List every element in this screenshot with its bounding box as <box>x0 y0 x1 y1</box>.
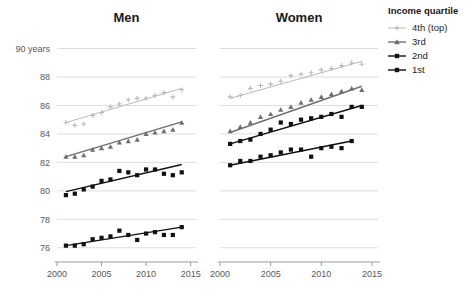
y-tick-label: 84 <box>40 129 50 139</box>
data-point <box>309 70 314 75</box>
data-point <box>349 86 354 91</box>
data-point <box>309 116 313 120</box>
data-point <box>278 79 283 84</box>
series-men-3rd <box>63 120 184 159</box>
legend-marker <box>395 68 399 72</box>
data-point <box>360 105 364 109</box>
data-point <box>228 163 232 167</box>
data-point <box>180 225 184 229</box>
data-point <box>359 87 364 92</box>
data-point <box>117 229 121 233</box>
data-point <box>258 114 263 119</box>
data-point <box>91 237 95 241</box>
data-point <box>117 169 121 173</box>
legend-item-4th-top-[interactable]: 4th (top) <box>388 22 447 33</box>
data-point <box>73 244 77 248</box>
data-point <box>108 144 113 149</box>
data-point <box>64 244 68 248</box>
data-point <box>99 179 103 183</box>
data-point <box>289 147 293 151</box>
data-point <box>309 155 313 159</box>
data-point <box>268 82 273 87</box>
data-point <box>144 96 149 101</box>
y-tick-label: 82 <box>40 158 50 168</box>
legend-label: 4th (top) <box>412 22 447 33</box>
x-tick-label: 2015 <box>362 269 382 279</box>
data-point <box>171 173 175 177</box>
x-tick-label: 2010 <box>311 269 331 279</box>
y-tick-label: 88 <box>40 72 50 82</box>
data-point <box>279 150 283 154</box>
data-point <box>162 233 166 237</box>
legend-item-3rd[interactable]: 3rd <box>388 36 426 47</box>
x-tick-label: 2015 <box>181 269 201 279</box>
data-point <box>350 139 354 143</box>
data-point <box>268 111 273 116</box>
series-women-1st <box>228 139 354 167</box>
trend-line <box>66 122 182 157</box>
y-tick-label: 80 <box>40 186 50 196</box>
y-tick-label: 90 years <box>15 44 50 54</box>
data-point <box>269 128 273 132</box>
x-tick-label: 2005 <box>92 269 112 279</box>
data-point <box>126 97 131 102</box>
data-point <box>238 159 242 163</box>
data-point <box>289 122 293 126</box>
data-point <box>258 132 262 136</box>
data-point <box>179 87 184 92</box>
data-point <box>73 192 77 196</box>
data-point <box>329 112 333 116</box>
data-point <box>135 173 139 177</box>
data-point <box>319 94 324 99</box>
data-point <box>319 146 323 150</box>
data-point <box>319 67 324 72</box>
data-point <box>339 115 343 119</box>
data-point <box>238 93 243 98</box>
legend-item-2nd[interactable]: 2nd <box>388 50 428 61</box>
data-point <box>144 231 148 235</box>
data-point <box>99 110 104 115</box>
data-point <box>81 122 86 127</box>
data-point <box>228 95 233 100</box>
data-point <box>135 137 140 142</box>
data-point <box>180 170 184 174</box>
data-point <box>108 177 112 181</box>
data-point <box>258 83 263 88</box>
data-point <box>248 120 253 125</box>
data-point <box>248 138 252 142</box>
data-point <box>350 105 354 109</box>
y-tick-label: 86 <box>40 101 50 111</box>
data-point <box>153 167 157 171</box>
x-tick-label: 2000 <box>210 269 230 279</box>
panel-title-women: Women <box>276 10 323 25</box>
legend-marker <box>394 25 399 30</box>
data-point <box>238 124 243 129</box>
legend-label: 3rd <box>412 36 426 47</box>
data-point <box>269 153 273 157</box>
data-point <box>228 128 233 133</box>
data-point <box>161 128 166 133</box>
data-point <box>238 139 242 143</box>
data-point <box>298 100 303 105</box>
legend-item-1st[interactable]: 1st <box>388 64 425 75</box>
data-point <box>81 153 86 158</box>
data-point <box>299 72 304 77</box>
data-point <box>329 91 334 96</box>
series-men-1st <box>64 225 184 248</box>
data-point <box>135 238 139 242</box>
y-tick-label: 76 <box>40 243 50 253</box>
life-expectancy-chart: 7678808284868890 yearsMen200020052010201… <box>0 0 471 295</box>
data-point <box>144 167 148 171</box>
data-point <box>339 89 344 94</box>
data-point <box>299 147 303 151</box>
series-women-4th-top- <box>228 60 364 99</box>
x-tick-label: 2010 <box>136 269 156 279</box>
data-point <box>99 236 103 240</box>
data-point <box>309 97 314 102</box>
data-point <box>279 120 283 124</box>
data-point <box>228 142 232 146</box>
data-point <box>248 159 252 163</box>
x-tick-label: 2005 <box>261 269 281 279</box>
data-point <box>82 242 86 246</box>
y-tick-label: 78 <box>40 215 50 225</box>
